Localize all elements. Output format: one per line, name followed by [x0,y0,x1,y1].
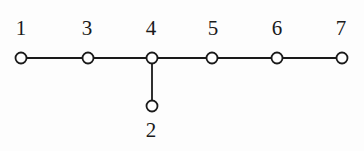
node-label-4: 4 [131,18,171,39]
graph-node [147,101,158,112]
node-label-7: 7 [321,18,361,39]
node-label-6: 6 [257,18,297,39]
graph-node [272,53,283,64]
graph-node [147,53,158,64]
graph-node [83,53,94,64]
node-layer [16,53,348,112]
node-label-1: 1 [1,18,41,39]
graph-node [337,53,348,64]
node-label-3: 3 [67,18,107,39]
graph-node [207,53,218,64]
node-label-2: 2 [131,120,171,141]
graph-node [16,53,27,64]
graph-canvas [0,0,364,151]
graph-figure: 1345672 [0,0,364,151]
node-label-5: 5 [193,18,233,39]
edge-layer [27,58,336,100]
